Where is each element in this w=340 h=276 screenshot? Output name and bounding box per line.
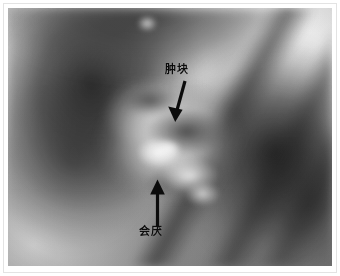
page-root: 肿块 会厌 xyxy=(0,0,340,276)
arrow-up-icon xyxy=(142,178,174,228)
annotation-label-mass: 肿块 xyxy=(165,64,188,76)
arrow-down-left-icon xyxy=(160,78,200,126)
